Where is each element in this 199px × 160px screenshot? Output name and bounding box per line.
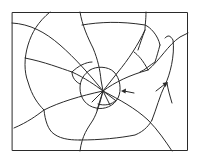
fracture-pattern-svg xyxy=(0,0,199,160)
crack-top-right-diag xyxy=(103,30,145,91)
crack-lower-right-diag xyxy=(103,91,172,151)
crack-right-mid xyxy=(103,33,188,91)
crack-far-right-tail xyxy=(167,83,172,103)
crack-lower-left-long xyxy=(14,91,103,128)
arrow-left-head-icon xyxy=(121,89,126,94)
inner-spokes xyxy=(92,91,115,110)
frame xyxy=(13,13,188,151)
crack-top-right-vert xyxy=(138,12,146,50)
crack-left-big-loop xyxy=(25,12,80,140)
fracture-diagram xyxy=(0,0,199,160)
crack-right-loop xyxy=(152,36,173,120)
crack-top-band xyxy=(82,22,160,45)
crack-right-branch2 xyxy=(134,52,148,70)
crack-left-horizontal xyxy=(25,58,103,91)
